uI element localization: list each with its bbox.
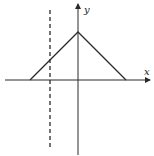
y-axis-label: y [83, 4, 90, 15]
function-graph: y x [0, 0, 154, 156]
x-axis-label: x [144, 66, 150, 77]
